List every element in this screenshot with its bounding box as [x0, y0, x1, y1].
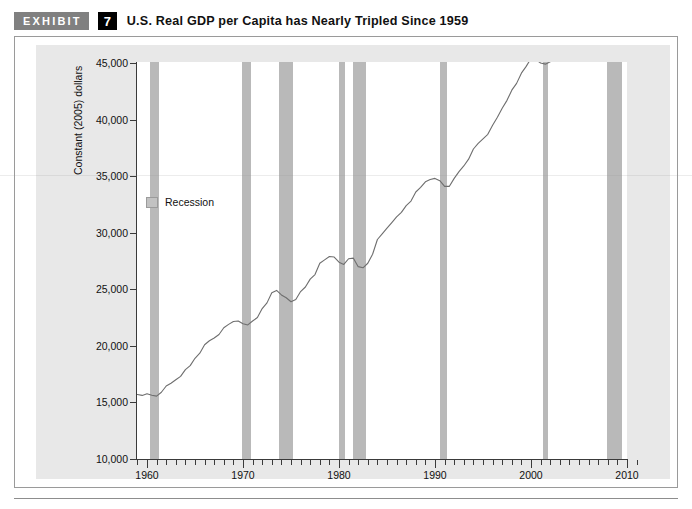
x-axis-minor-tick: [387, 460, 388, 465]
x-axis-minor-tick: [368, 460, 369, 465]
x-axis-minor-tick: [397, 460, 398, 465]
x-axis-minor-tick: [425, 460, 426, 465]
gdp-line-series: [137, 62, 627, 460]
x-axis-major-tick: [147, 460, 148, 468]
y-axis-tick-label: 45,000: [96, 57, 128, 69]
x-axis-minor-tick: [377, 460, 378, 465]
x-axis-minor-tick: [550, 460, 551, 465]
x-axis-minor-tick: [579, 460, 580, 465]
x-axis-minor-tick: [608, 460, 609, 465]
x-axis-tick-label: 1970: [231, 469, 254, 481]
x-axis-minor-tick: [512, 460, 513, 465]
x-axis-minor-tick: [598, 460, 599, 465]
x-axis-minor-tick: [233, 460, 234, 465]
exhibit-page: EXHIBIT 7 U.S. Real GDP per Capita has N…: [0, 0, 692, 509]
plot-area: [137, 62, 627, 460]
y-axis-line: [136, 62, 137, 460]
x-axis-minor-tick: [291, 460, 292, 465]
x-axis-minor-tick: [301, 460, 302, 465]
x-axis-minor-tick: [224, 460, 225, 465]
x-axis-minor-tick: [464, 460, 465, 465]
x-axis-minor-tick: [637, 460, 638, 465]
x-axis-minor-tick: [281, 460, 282, 465]
x-axis-major-tick: [339, 460, 340, 468]
x-axis-minor-tick: [166, 460, 167, 465]
x-axis-minor-tick: [310, 460, 311, 465]
x-axis-tick-label: 1990: [423, 469, 446, 481]
y-axis-tick-label: 10,000: [96, 453, 128, 465]
x-axis-minor-tick: [483, 460, 484, 465]
x-axis-minor-tick: [617, 460, 618, 465]
x-axis-minor-tick: [521, 460, 522, 465]
x-axis-major-tick: [627, 460, 628, 468]
x-axis-minor-tick: [176, 460, 177, 465]
x-axis-minor-tick: [454, 460, 455, 465]
x-axis-tick-label: 1980: [327, 469, 350, 481]
x-axis-minor-tick: [560, 460, 561, 465]
x-axis-minor-tick: [262, 460, 263, 465]
x-axis-minor-tick: [205, 460, 206, 465]
x-axis-minor-tick: [406, 460, 407, 465]
x-axis-minor-tick: [445, 460, 446, 465]
y-axis-tick-label: 25,000: [96, 283, 128, 295]
footer-rule: [14, 498, 678, 499]
x-axis-minor-tick: [185, 460, 186, 465]
legend-recession-label: Recession: [165, 196, 214, 208]
x-axis-minor-tick: [329, 460, 330, 465]
x-axis-tick-label: 2000: [519, 469, 542, 481]
x-axis-minor-tick: [349, 460, 350, 465]
y-axis-tick-label: 30,000: [96, 227, 128, 239]
y-axis-tick-label: 40,000: [96, 114, 128, 126]
x-axis-minor-tick: [137, 460, 138, 465]
x-axis-minor-tick: [358, 460, 359, 465]
exhibit-title: U.S. Real GDP per Capita has Nearly Trip…: [127, 14, 469, 28]
x-axis-minor-tick: [589, 460, 590, 465]
x-axis-minor-tick: [493, 460, 494, 465]
chart-legend: Recession: [146, 196, 214, 208]
x-axis-minor-tick: [272, 460, 273, 465]
x-axis-minor-tick: [157, 460, 158, 465]
x-axis-minor-tick: [473, 460, 474, 465]
x-axis-major-tick: [435, 460, 436, 468]
y-axis-labels: 10,00015,00020,00025,00030,00035,00040,0…: [50, 0, 128, 509]
x-axis-minor-tick: [214, 460, 215, 465]
x-axis-line: [136, 459, 628, 460]
y-axis-tick-label: 15,000: [96, 396, 128, 408]
x-axis-minor-tick: [541, 460, 542, 465]
x-axis-minor-tick: [416, 460, 417, 465]
scan-seam: [0, 175, 692, 176]
recession-swatch-icon: [146, 197, 158, 208]
x-axis-minor-tick: [502, 460, 503, 465]
x-axis-minor-tick: [320, 460, 321, 465]
x-axis-major-tick: [531, 460, 532, 468]
y-axis-tick-label: 35,000: [96, 170, 128, 182]
x-axis-major-tick: [243, 460, 244, 468]
x-axis-minor-tick: [253, 460, 254, 465]
x-axis-tick-label: 2010: [615, 469, 638, 481]
y-axis-tick-label: 20,000: [96, 340, 128, 352]
x-axis-tick-label: 1960: [135, 469, 158, 481]
x-axis-minor-tick: [569, 460, 570, 465]
x-axis-minor-tick: [195, 460, 196, 465]
